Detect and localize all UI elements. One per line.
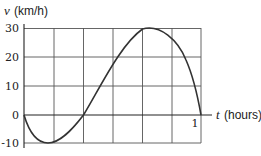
y-tick-0: 0 bbox=[12, 109, 19, 122]
x-axis-var: t bbox=[216, 107, 220, 122]
x-tick-1: 1 bbox=[192, 117, 199, 130]
y-axis-var: v bbox=[4, 3, 10, 18]
y-tick-20: 20 bbox=[5, 51, 19, 64]
y-tick-30: 30 bbox=[5, 22, 19, 35]
y-tick-neg10: -10 bbox=[1, 137, 19, 150]
grid bbox=[24, 28, 201, 143]
y-axis-unit: (km/h) bbox=[14, 4, 48, 18]
velocity-chart: v (km/h) 30 20 10 0 -10 1 t (hours) bbox=[0, 0, 261, 156]
y-tick-10: 10 bbox=[5, 80, 19, 93]
x-axis-unit: (hours) bbox=[224, 108, 261, 122]
velocity-curve bbox=[24, 28, 201, 143]
